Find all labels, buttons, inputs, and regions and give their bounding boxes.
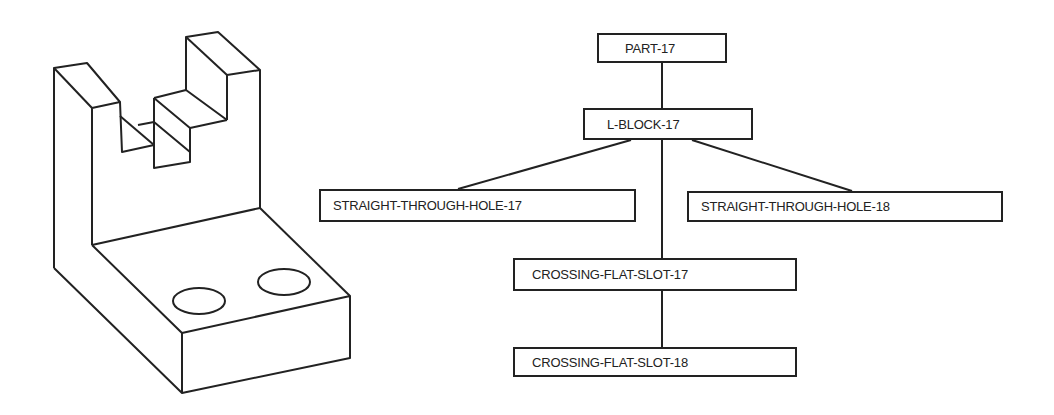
node-label: L-BLOCK-17 [607, 117, 679, 132]
node-label: CROSSING-FLAT-SLOT-17 [532, 267, 688, 282]
node-label: PART-17 [625, 41, 675, 56]
node-straight-through-hole-17: STRAIGHT-THROUGH-HOLE-17 [319, 189, 636, 222]
node-straight-through-hole-18: STRAIGHT-THROUGH-HOLE-18 [687, 191, 1003, 222]
edge-lblock-sth18 [692, 140, 852, 191]
node-label: STRAIGHT-THROUGH-HOLE-18 [701, 199, 890, 214]
node-l-block-17: L-BLOCK-17 [583, 108, 753, 140]
node-crossing-flat-slot-17: CROSSING-FLAT-SLOT-17 [513, 258, 797, 291]
edge-lblock-sth17 [458, 140, 631, 189]
node-label: STRAIGHT-THROUGH-HOLE-17 [333, 198, 522, 213]
node-part-17: PART-17 [597, 33, 727, 63]
node-crossing-flat-slot-18: CROSSING-FLAT-SLOT-18 [513, 347, 797, 377]
node-label: CROSSING-FLAT-SLOT-18 [532, 355, 688, 370]
